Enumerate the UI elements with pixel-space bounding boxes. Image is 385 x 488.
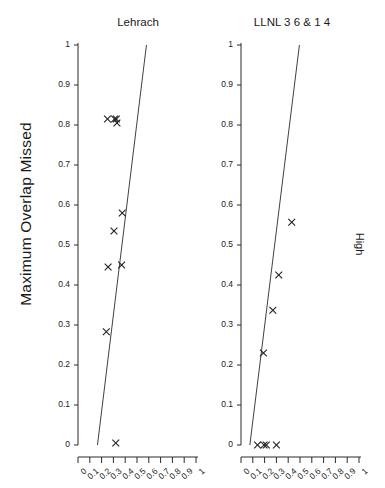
data-point-marker xyxy=(104,116,111,123)
y-tick-label-1-2: 0.2 xyxy=(199,359,233,369)
y-tick-label-1-4: 0.4 xyxy=(199,279,233,289)
y-tick-label-0-10: 1 xyxy=(36,39,70,49)
data-point-marker xyxy=(111,228,118,235)
y-tick-label-1-5: 0.5 xyxy=(199,239,233,249)
y-tick-label-1-8: 0.8 xyxy=(199,119,233,129)
data-point-marker xyxy=(288,219,295,226)
y-tick-label-0-0: 0 xyxy=(36,439,70,449)
data-point-marker xyxy=(254,442,261,449)
figure-canvas: Maximum Overlap Missed High Lehrach LLNL… xyxy=(0,0,385,488)
y-tick-label-1-9: 0.9 xyxy=(199,79,233,89)
y-tick-label-0-7: 0.7 xyxy=(36,159,70,169)
data-points-0 xyxy=(103,116,126,447)
y-tick-label-0-2: 0.2 xyxy=(36,359,70,369)
data-point-marker xyxy=(269,307,276,314)
y-tick-label-1-0: 0 xyxy=(199,439,233,449)
y-tick-label-1-1: 0.1 xyxy=(199,399,233,409)
y-tick-label-0-8: 0.8 xyxy=(36,119,70,129)
y-tick-label-0-5: 0.5 xyxy=(36,239,70,249)
y-tick-label-1-3: 0.3 xyxy=(199,319,233,329)
y-tick-label-0-4: 0.4 xyxy=(36,279,70,289)
data-points-1 xyxy=(254,219,295,449)
y-tick-label-0-1: 0.1 xyxy=(36,399,70,409)
y-tick-label-1-10: 1 xyxy=(199,39,233,49)
reference-line-1 xyxy=(250,45,300,445)
y-tick-label-0-3: 0.3 xyxy=(36,319,70,329)
data-point-marker xyxy=(105,264,112,271)
reference-line-0 xyxy=(97,45,146,445)
data-point-marker xyxy=(275,272,282,279)
y-tick-label-0-6: 0.6 xyxy=(36,199,70,209)
data-point-marker xyxy=(273,442,280,449)
data-point-marker xyxy=(119,210,126,217)
data-point-marker xyxy=(112,440,119,447)
data-point-marker xyxy=(103,328,110,335)
y-tick-label-1-7: 0.7 xyxy=(199,159,233,169)
y-tick-label-0-9: 0.9 xyxy=(36,79,70,89)
y-tick-label-1-6: 0.6 xyxy=(199,199,233,209)
